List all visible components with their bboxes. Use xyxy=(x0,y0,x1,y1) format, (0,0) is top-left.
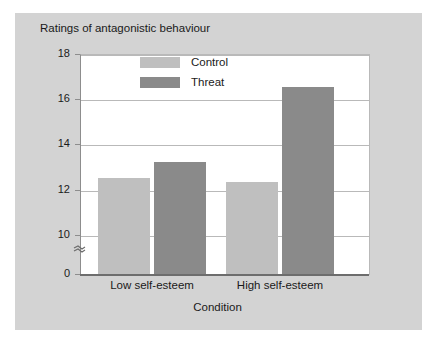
y-tick-mark-14 xyxy=(75,144,80,145)
legend-label-control: Control xyxy=(191,56,228,68)
legend-swatch-control xyxy=(140,57,180,68)
y-tick-label-14: 14 xyxy=(40,137,70,149)
bar-threat-low-self-esteem xyxy=(154,162,206,274)
y-tick-mark-12 xyxy=(75,190,80,191)
y-tick-mark-10 xyxy=(75,235,80,236)
x-category-label-high-self-esteem: High self-esteem xyxy=(220,279,340,291)
y-tick-mark-0 xyxy=(75,274,80,275)
x-axis-title: Condition xyxy=(0,301,435,313)
y-tick-label-18: 18 xyxy=(40,47,70,59)
y-tick-label-16: 16 xyxy=(40,92,70,104)
x-category-label-low-self-esteem: Low self-esteem xyxy=(92,279,212,291)
legend-swatch-threat xyxy=(140,77,180,88)
y-tick-label-12: 12 xyxy=(40,183,70,195)
y-tick-mark-16 xyxy=(75,99,80,100)
axis-break-icon xyxy=(72,242,86,256)
y-tick-label-0: 0 xyxy=(40,267,70,279)
legend-item-threat: Threat xyxy=(140,74,228,90)
chart-title: Ratings of antagonistic behaviour xyxy=(40,22,210,34)
chart-legend: Control Threat xyxy=(140,54,228,94)
y-tick-mark-18 xyxy=(75,54,80,55)
legend-item-control: Control xyxy=(140,54,228,70)
legend-label-threat: Threat xyxy=(191,76,224,88)
bar-control-low-self-esteem xyxy=(98,178,150,274)
x-axis-line xyxy=(80,274,369,276)
bar-control-high-self-esteem xyxy=(226,182,278,274)
y-tick-label-10: 10 xyxy=(40,228,70,240)
bar-threat-high-self-esteem xyxy=(282,87,334,274)
